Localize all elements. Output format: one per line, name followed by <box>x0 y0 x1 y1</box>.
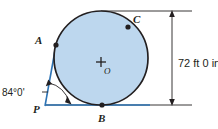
point-label-a: A <box>34 34 42 46</box>
point-label-c: C <box>133 13 141 25</box>
angle-arc-arrow-end-icon <box>65 96 72 105</box>
point-marker-b <box>99 102 104 107</box>
point-label-b: B <box>97 112 105 124</box>
figure-canvas: O A B C P 84°0' 72 ft 0 in <box>0 0 218 129</box>
point-marker-c <box>125 24 130 29</box>
center-label-o: O <box>104 66 111 76</box>
geometry-figure: O A B C P 84°0' 72 ft 0 in <box>0 0 218 129</box>
point-label-p: P <box>33 103 40 115</box>
point-marker-a <box>53 42 58 47</box>
dimension-value-label: 72 ft 0 in <box>178 57 218 69</box>
angle-value-label: 84°0' <box>2 87 25 98</box>
